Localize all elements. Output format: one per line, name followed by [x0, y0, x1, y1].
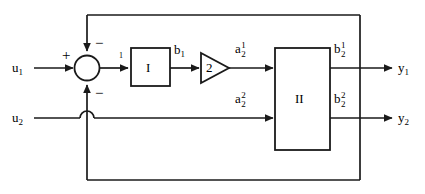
- block-diagram: u1 u2 + − − 1 I b1 2 a12 a22 II: [0, 0, 425, 194]
- input-label-u1: u1: [12, 61, 23, 77]
- output-label-y2: y2: [398, 111, 409, 127]
- block-2-label: II: [295, 92, 304, 105]
- signal-label-b2-2: b22: [334, 91, 346, 109]
- summing-junction-circle: [75, 56, 100, 81]
- diagram-canvas: [0, 0, 425, 194]
- summer-sign-bottom: −: [95, 86, 103, 101]
- signal-label-a2-1: a12: [235, 41, 246, 59]
- block-1-rect: [131, 48, 170, 86]
- signal-label-b1: b1: [174, 43, 185, 59]
- summer-sign-left: +: [62, 48, 70, 63]
- signal-label-a2-2: a22: [235, 91, 246, 109]
- signal-label-e1: 1: [119, 52, 123, 60]
- gain-label: 2: [206, 61, 213, 74]
- input-label-u2: u2: [12, 111, 23, 127]
- block-1-label: I: [146, 61, 150, 74]
- output-label-y1: y1: [398, 61, 409, 77]
- summer-sign-top: −: [95, 36, 103, 51]
- signal-label-b2-1: b12: [334, 41, 346, 59]
